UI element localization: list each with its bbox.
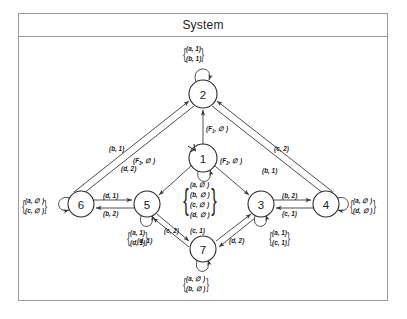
edge-label-2-to-6: (d, 2) (121, 164, 136, 174)
edge-label-2-to-4: (b, 1) (262, 166, 277, 176)
brace-left: { (183, 185, 189, 215)
self-loop-7-labels: { (a, ∅ ) (b, ∅ ) } (182, 274, 210, 294)
edge-label-1-to-3: (F2, ∅ ) (220, 156, 242, 167)
self-loop-3-labels: { (a, 1) (c, 1) } (268, 228, 291, 248)
diagram-root: System (0, 0, 407, 319)
initial-state-marker (188, 144, 196, 152)
svg-text:5: 5 (144, 199, 150, 211)
brace-left: { (22, 198, 25, 213)
svg-text:2: 2 (200, 89, 206, 101)
loop-7-label-2: (b, ∅ ) (186, 284, 206, 294)
brace-left: { (183, 276, 186, 291)
edge-label-4-to-2: (c, 2) (274, 144, 289, 154)
brace-right: } (373, 198, 376, 213)
edge-2-to-6 (79, 106, 194, 197)
edge-6-to-2 (74, 101, 189, 192)
brace-right: } (287, 230, 290, 245)
brace-left: { (350, 198, 353, 213)
svg-text:1: 1 (200, 153, 206, 165)
edge-label-7-to-5: (d, 1) (137, 236, 152, 246)
edge-label-3-to-4: (b, 2) (282, 191, 297, 201)
node-5[interactable]: 5 (134, 191, 160, 217)
node-3[interactable]: 3 (248, 191, 274, 217)
brace-right: } (206, 276, 209, 291)
loop-6-label-1: (a, ∅ ) (25, 196, 44, 206)
edge-label-4-to-3: (c, 1) (282, 209, 297, 219)
self-loop-2-labels: { (a, 1) (b, 1) } (182, 44, 205, 64)
loop-1-label-3: (c, ∅ ) (190, 200, 210, 210)
edge-1-to-3 (215, 166, 249, 195)
svg-text:6: 6 (78, 199, 84, 211)
brace-right: } (201, 46, 204, 61)
loop-1-label-4: (d, ∅ ) (190, 210, 210, 220)
loop-2-label-1: (a, 1) (186, 44, 201, 54)
edge-label-5-to-6: (b, 2) (103, 209, 118, 219)
loop-1-label-1: (a, ∅ ) (190, 180, 210, 190)
brace-left: { (127, 230, 130, 245)
brace-left: { (183, 46, 186, 61)
loop-6-label-2: (c, ∅ ) (25, 206, 44, 216)
node-7[interactable]: 7 (190, 236, 216, 262)
f-close: , ∅ ) (229, 157, 242, 164)
loop-7-label-1: (a, ∅ ) (186, 274, 206, 284)
node-6[interactable]: 6 (68, 191, 94, 217)
svg-text:7: 7 (200, 244, 206, 256)
loop-4-label-2: (d, ∅ ) (353, 206, 373, 216)
node-1[interactable]: 1 (188, 144, 217, 172)
f-close: , ∅ ) (215, 125, 228, 132)
edge-2-to-4 (212, 106, 328, 197)
node-2[interactable]: 2 (189, 80, 217, 108)
brace-right: } (211, 185, 217, 215)
self-loop-1-labels: { (a, ∅ ) (b, ∅ ) (c, ∅ ) (d, ∅ ) } (181, 180, 219, 220)
brace-left: { (269, 230, 272, 245)
loop-4-label-1: (a, ∅ ) (353, 196, 373, 206)
svg-text:3: 3 (258, 199, 264, 211)
edge-label-6-to-5: (d, 1) (103, 191, 118, 201)
loop-1-label-2: (b, ∅ ) (190, 190, 210, 200)
edge-label-1-to-5: (F3, ∅ ) (133, 156, 155, 167)
node-4[interactable]: 4 (313, 191, 339, 217)
edge-label-1-to-2: (F1, ∅ ) (206, 124, 228, 135)
brace-right: } (44, 198, 47, 213)
loop-2-label-2: (b, 1) (186, 54, 201, 64)
loop-3-label-2: (c, 1) (272, 238, 287, 248)
f-close: , ∅ ) (142, 157, 155, 164)
edge-label-7-to-3: (c, 1) (190, 226, 205, 236)
svg-text:4: 4 (323, 199, 330, 211)
edge-label-5-to-7: (c, 2) (164, 226, 179, 236)
edge-label-3-to-7: (d, 2) (229, 236, 244, 246)
edge-label-6-to-2: (b, 1) (109, 144, 124, 154)
self-loop-6-labels: { (a, ∅ ) (c, ∅ ) } (21, 196, 48, 216)
self-loop-4-labels: { (a, ∅ ) (d, ∅ ) } (349, 196, 377, 216)
loop-3-label-1: (a, 1) (272, 228, 287, 238)
